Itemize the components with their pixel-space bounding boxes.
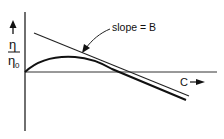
annotation-arrow	[86, 29, 110, 48]
slope-annotation: slope = B	[112, 22, 156, 33]
arrow-up-icon	[10, 20, 17, 28]
arrowhead-icon	[82, 44, 90, 53]
arrow-right-icon	[196, 79, 205, 85]
y-label-subscript: 0	[15, 62, 19, 70]
y-label-numerator: η	[9, 38, 16, 51]
straight-line	[34, 33, 189, 96]
curved-line	[25, 57, 186, 100]
x-axis-label: C	[180, 77, 188, 88]
